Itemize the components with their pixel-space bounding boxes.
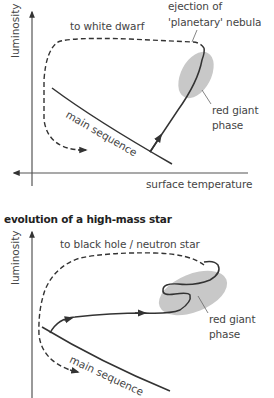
top-label-red-giant-line1: red giant	[212, 104, 258, 116]
bottom-dashed-arrowhead	[70, 370, 78, 372]
stellar-evolution-diagrams: luminosity to white dwarf ejection of 'p…	[0, 0, 274, 398]
top-evolution-arrow	[150, 135, 161, 152]
bottom-label-red-giant-line2: phase	[209, 328, 240, 340]
top-red-giant-leader	[202, 90, 211, 104]
top-red-giant-ellipse	[171, 46, 221, 104]
top-y-axis-label: luminosity	[9, 3, 21, 58]
top-dashed-path-to-white-dwarf	[44, 38, 204, 150]
top-diagram	[14, 12, 248, 186]
bottom-y-axis-label: luminosity	[9, 230, 21, 285]
top-x-axis-label: surface temperature	[146, 178, 252, 190]
bottom-label-red-giant-line1: red giant	[209, 313, 255, 325]
top-label-to-white-dwarf: to white dwarf	[70, 20, 144, 32]
bottom-diagram-title: evolution of a high-mass star	[4, 213, 172, 225]
top-ejection-leader	[192, 30, 197, 42]
bottom-diagram	[32, 232, 233, 398]
bottom-label-to-black-hole: to black hole / neutron star	[60, 238, 200, 250]
top-main-sequence-line	[52, 88, 172, 164]
top-label-ejection-line2: 'planetary' nebula	[168, 16, 261, 28]
top-label-ejection-line1: ejection of	[168, 0, 222, 12]
top-label-red-giant-line2: phase	[212, 119, 243, 131]
